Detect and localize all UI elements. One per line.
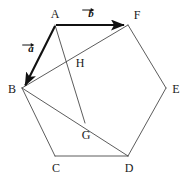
vertex-label-G: G — [82, 129, 91, 141]
segment-A-G — [55, 25, 85, 123]
geometry-figure: A B C D E F G H a b — [0, 0, 189, 182]
vertex-label-E: E — [172, 83, 179, 95]
vertex-label-D: D — [125, 162, 134, 174]
vertex-label-A: A — [51, 8, 60, 20]
vertex-label-B: B — [8, 83, 16, 95]
edge-D-E — [128, 88, 166, 156]
vertex-label-H: H — [76, 57, 85, 69]
diagram-canvas — [0, 0, 189, 182]
vertex-label-C: C — [52, 162, 60, 174]
diagonal-B-D — [22, 88, 128, 156]
vector-label-b: b — [88, 8, 94, 19]
vertex-label-F: F — [134, 9, 141, 21]
vector-label-a: a — [28, 43, 34, 54]
vector-a-arrow — [25, 26, 55, 86]
edge-E-F — [128, 25, 166, 88]
